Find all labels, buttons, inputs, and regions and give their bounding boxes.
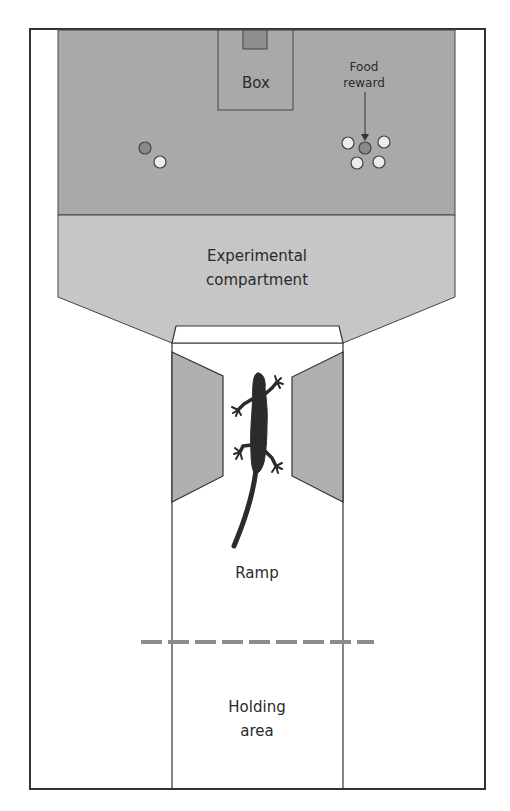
food-reward-label-line1: Food <box>350 60 379 74</box>
light-dish <box>373 156 385 168</box>
box-tab <box>243 30 267 49</box>
left-side-panel <box>172 352 223 502</box>
food-reward-dish <box>359 142 371 154</box>
light-dish <box>378 136 390 148</box>
ramp-label: Ramp <box>235 564 278 582</box>
experimental-compartment-label-line1: Experimental <box>207 247 307 265</box>
experimental-apparatus-diagram: Box Food reward Experimental compartment <box>0 0 510 811</box>
experimental-compartment-label-line2: compartment <box>206 271 308 289</box>
light-dish <box>351 157 363 169</box>
light-dish <box>154 156 166 168</box>
box-label: Box <box>242 74 270 92</box>
right-side-panel <box>292 352 343 502</box>
holding-area-label-line2: area <box>240 722 273 740</box>
holding-area-label-line1: Holding <box>228 698 285 716</box>
light-dish <box>342 137 354 149</box>
dark-dish <box>139 142 151 154</box>
ramp-entrance <box>172 326 343 343</box>
food-reward-label-line2: reward <box>343 76 385 90</box>
